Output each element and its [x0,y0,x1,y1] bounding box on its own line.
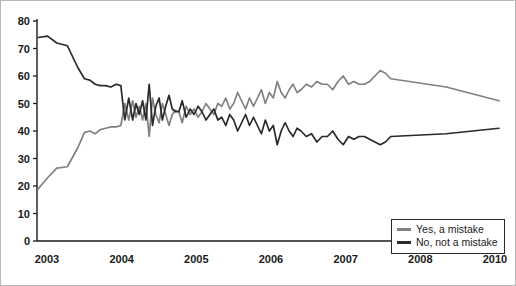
series-layer [38,36,499,189]
x-tick-label: 2008 [408,253,432,265]
x-tick-label: 2005 [184,253,208,265]
y-tick-label: 80 [18,15,30,27]
x-tick-label: 2003 [35,253,59,265]
y-tick-labels: 01020304050607080 [18,15,30,247]
y-tick-label: 40 [18,125,30,137]
x-tick-label: 2006 [259,253,283,265]
y-tick-label: 30 [18,153,30,165]
y-tick-label: 60 [18,70,30,82]
y-tick-label: 10 [18,208,30,220]
legend-label: Yes, a mistake [416,223,484,236]
line-chart: 01020304050607080 2003200420052006200720… [0,0,516,286]
x-tick-label: 2010 [483,253,507,265]
legend-item-1: Yes, a mistake [397,223,498,236]
y-tick-label: 20 [18,180,30,192]
legend-swatch-icon [397,241,411,244]
x-tick-label: 2007 [333,253,357,265]
chart-legend: Yes, a mistakeNo, not a mistake [391,219,505,254]
legend-swatch-icon [397,228,411,231]
legend-item-2: No, not a mistake [397,236,498,249]
y-tick-label: 50 [18,98,30,110]
x-tick-label: 2004 [109,253,134,265]
y-tick-label: 0 [24,235,30,247]
x-tick-labels: 2003200420052006200720082010 [35,253,507,265]
legend-label: No, not a mistake [416,236,498,249]
y-tick-label: 70 [18,43,30,55]
